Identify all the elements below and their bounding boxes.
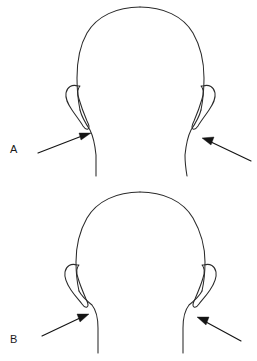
canvas-background	[0, 0, 257, 361]
panel-a-label: A	[10, 144, 18, 155]
figure-root: A B	[0, 0, 257, 361]
head-neck-illustration	[0, 0, 257, 361]
panel-b-label: B	[10, 334, 18, 345]
